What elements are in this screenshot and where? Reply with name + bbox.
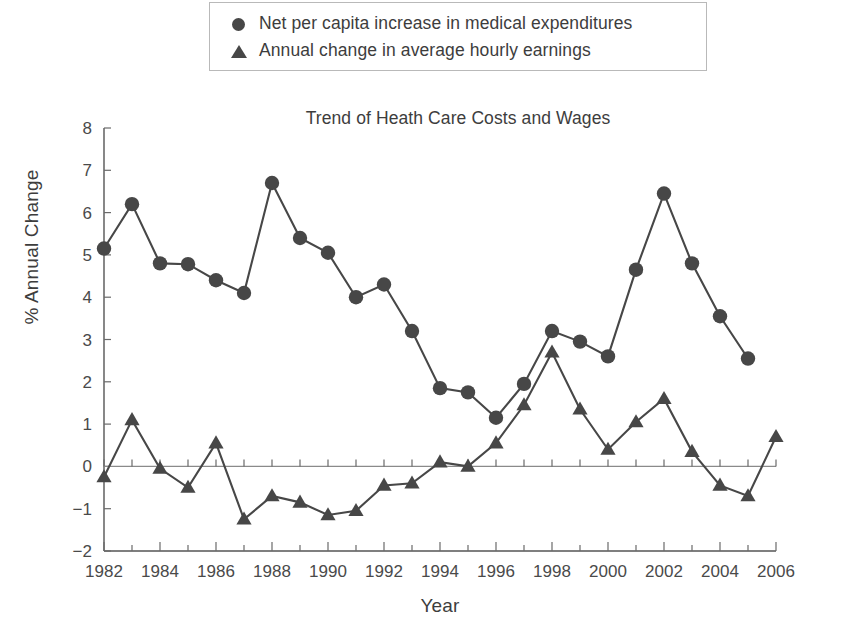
data-point-marker — [180, 480, 195, 493]
series-medical-expenditures — [97, 176, 755, 425]
data-point-marker — [405, 324, 419, 338]
data-point-marker — [377, 277, 391, 291]
x-tick-label: 1988 — [253, 562, 291, 581]
x-tick-label: 2006 — [757, 562, 795, 581]
axes-group — [104, 128, 776, 551]
data-point-marker — [657, 186, 671, 200]
data-point-marker — [432, 454, 447, 467]
data-point-marker — [293, 231, 307, 245]
data-point-marker — [629, 263, 643, 277]
y-tick-label: 7 — [83, 161, 92, 180]
x-tick-label: 1982 — [85, 562, 123, 581]
data-point-marker — [237, 286, 251, 300]
data-point-marker — [236, 511, 251, 524]
data-point-marker — [265, 176, 279, 190]
data-point-marker — [628, 414, 643, 427]
data-point-marker — [264, 488, 279, 501]
x-tick-label: 1990 — [309, 562, 347, 581]
data-point-marker — [181, 257, 195, 271]
data-point-marker — [404, 476, 419, 489]
data-point-marker — [461, 385, 475, 399]
x-tick-label: 2000 — [589, 562, 627, 581]
y-tick-label: 1 — [83, 415, 92, 434]
data-point-marker — [97, 241, 111, 255]
data-point-marker — [685, 256, 699, 270]
x-tick-label: 1998 — [533, 562, 571, 581]
data-point-marker — [153, 256, 167, 270]
x-tick-label: 1994 — [421, 562, 459, 581]
data-point-marker — [601, 349, 615, 363]
data-point-marker — [516, 397, 531, 410]
data-point-marker — [349, 290, 363, 304]
x-tick-label: 1984 — [141, 562, 179, 581]
chart-figure: Net per capita increase in medical expen… — [0, 0, 860, 639]
data-point-marker — [321, 246, 335, 260]
data-point-marker — [768, 429, 783, 442]
data-point-marker — [152, 461, 167, 474]
y-tick-label: 8 — [83, 119, 92, 138]
y-tick-labels: −2−1012345678 — [73, 119, 92, 561]
data-point-marker — [544, 344, 559, 357]
y-tick-label: 5 — [83, 246, 92, 265]
y-tick-label: 0 — [83, 457, 92, 476]
series-hourly-earnings — [96, 344, 783, 524]
x-tick-label: 2004 — [701, 562, 739, 581]
data-point-marker — [489, 411, 503, 425]
plot-canvas: −2−1012345678 19821984198619881990199219… — [0, 0, 860, 639]
y-tick-label: −1 — [73, 500, 92, 519]
data-point-marker — [433, 381, 447, 395]
y-tick-label: 2 — [83, 373, 92, 392]
data-point-marker — [517, 377, 531, 391]
y-tick-label: −2 — [73, 542, 92, 561]
data-point-marker — [741, 351, 755, 365]
data-point-marker — [209, 273, 223, 287]
y-tick-label: 6 — [83, 204, 92, 223]
data-point-marker — [572, 401, 587, 414]
data-series-group — [96, 176, 783, 525]
x-tick-labels: 1982198419861988199019921994199619982000… — [85, 562, 795, 581]
data-point-marker — [208, 435, 223, 448]
data-point-marker — [96, 469, 111, 482]
data-point-marker — [573, 334, 587, 348]
data-point-marker — [684, 444, 699, 457]
x-tick-label: 1986 — [197, 562, 235, 581]
x-tick-label: 1992 — [365, 562, 403, 581]
data-point-marker — [124, 412, 139, 425]
data-point-marker — [545, 324, 559, 338]
x-tick-label: 1996 — [477, 562, 515, 581]
data-point-marker — [713, 309, 727, 323]
y-tick-label: 4 — [83, 288, 92, 307]
data-point-marker — [656, 391, 671, 404]
x-tick-label: 2002 — [645, 562, 683, 581]
data-point-marker — [125, 197, 139, 211]
y-tick-label: 3 — [83, 331, 92, 350]
